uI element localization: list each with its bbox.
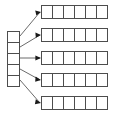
row-2 xyxy=(42,29,108,42)
row-4-cell-0[interactable] xyxy=(42,74,53,87)
connector-3-arrow-icon xyxy=(35,55,41,60)
bucket-index-cell-3[interactable] xyxy=(8,65,20,76)
row-2-cell-4[interactable] xyxy=(86,29,97,42)
row-2-cell-1[interactable] xyxy=(53,29,64,42)
connector-1-line xyxy=(20,12,40,36)
connector-4-arrow-icon xyxy=(35,77,41,82)
row-1-cell-1[interactable] xyxy=(53,6,64,19)
row-2-cell-5[interactable] xyxy=(97,29,108,42)
bucket-index-column xyxy=(8,32,20,87)
connector-5-line xyxy=(20,80,40,103)
row-1-cell-3[interactable] xyxy=(75,6,86,19)
row-3-cell-3[interactable] xyxy=(75,52,86,65)
row-3-cell-2[interactable] xyxy=(64,52,75,65)
diagram-canvas xyxy=(0,0,115,119)
bucket-index-cell-2[interactable] xyxy=(8,54,20,65)
row-5-cell-0[interactable] xyxy=(42,97,53,110)
row-5 xyxy=(42,97,108,110)
row-3-cell-4[interactable] xyxy=(86,52,97,65)
row-5-cell-3[interactable] xyxy=(75,97,86,110)
bucket-index-cell-4[interactable] xyxy=(8,76,20,87)
bucket-array-diagram xyxy=(0,0,115,119)
row-1-cell-2[interactable] xyxy=(64,6,75,19)
row-4-cell-5[interactable] xyxy=(97,74,108,87)
row-2-cell-3[interactable] xyxy=(75,29,86,42)
row-5-cell-1[interactable] xyxy=(53,97,64,110)
connector-2-arrow-icon xyxy=(35,33,41,38)
bucket-index-cell-1[interactable] xyxy=(8,43,20,54)
row-3 xyxy=(42,52,108,65)
row-3-cell-1[interactable] xyxy=(53,52,64,65)
row-1 xyxy=(42,6,108,19)
row-1-cell-0[interactable] xyxy=(42,6,53,19)
row-5-cell-5[interactable] xyxy=(97,97,108,110)
row-2-cell-2[interactable] xyxy=(64,29,75,42)
row-2-cell-0[interactable] xyxy=(42,29,53,42)
row-3-cell-0[interactable] xyxy=(42,52,53,65)
row-4-cell-3[interactable] xyxy=(75,74,86,87)
row-5-cell-4[interactable] xyxy=(86,97,97,110)
row-4-cell-4[interactable] xyxy=(86,74,97,87)
row-1-cell-5[interactable] xyxy=(97,6,108,19)
row-4-cell-2[interactable] xyxy=(64,74,75,87)
bucket-index-cell-0[interactable] xyxy=(8,32,20,43)
connector-group xyxy=(20,10,41,104)
row-1-cell-4[interactable] xyxy=(86,6,97,19)
row-4 xyxy=(42,74,108,87)
row-5-cell-2[interactable] xyxy=(64,97,75,110)
row-3-cell-5[interactable] xyxy=(97,52,108,65)
row-4-cell-1[interactable] xyxy=(53,74,64,87)
